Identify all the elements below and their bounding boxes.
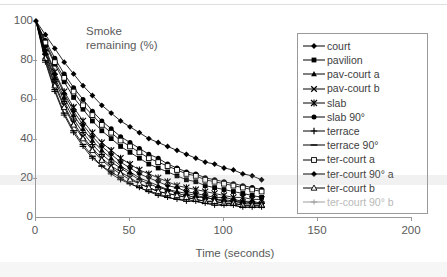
- data-point-marker: [250, 187, 255, 192]
- data-point-marker: [146, 136, 152, 142]
- data-point-marker: [109, 136, 114, 141]
- x-tick-mark: [411, 217, 412, 221]
- data-point-marker: [202, 159, 208, 165]
- data-point-marker: [109, 130, 114, 135]
- legend-item-label: ter-court b: [327, 183, 375, 194]
- data-point-marker: [212, 185, 217, 190]
- data-point-marker: [90, 119, 95, 124]
- legend-item-label: pav-court b: [327, 83, 380, 94]
- x-tick-label: 150: [307, 224, 326, 236]
- y-tick-label: 60: [3, 93, 33, 105]
- legend-item[interactable]: slab 90°: [302, 110, 424, 124]
- x-axis-title: Time (seconds): [140, 247, 330, 259]
- data-point-marker: [240, 185, 245, 190]
- y-tick-label: 0: [3, 211, 33, 223]
- legend-item[interactable]: ter-court b: [302, 181, 424, 195]
- data-point-marker: [212, 161, 218, 167]
- data-point-marker: [311, 128, 317, 134]
- data-point-marker: [99, 128, 104, 133]
- data-point-marker: [311, 200, 318, 205]
- x-tick-label: 0: [32, 224, 38, 236]
- legend-item[interactable]: pav-court b: [302, 82, 424, 96]
- data-point-marker: [193, 179, 198, 184]
- legend-item[interactable]: ter-court a: [302, 153, 424, 167]
- legend-marker-square-open: [302, 154, 326, 166]
- data-point-marker: [81, 103, 86, 108]
- legend-item-label: slab 90°: [327, 112, 365, 123]
- legend-item-label: ter-court 90° a: [327, 169, 394, 180]
- data-point-marker: [165, 144, 171, 150]
- data-point-marker: [312, 115, 317, 120]
- data-point-marker: [156, 160, 161, 165]
- legend-item[interactable]: pav-court a: [302, 67, 424, 81]
- legend-item-label: slab: [327, 98, 346, 109]
- data-point-marker: [175, 173, 180, 178]
- data-point-marker: [175, 168, 180, 173]
- data-point-marker: [231, 183, 236, 188]
- y-axis: 020406080100: [0, 14, 33, 214]
- legend-marker-cross: [302, 83, 326, 95]
- x-tick-label: 200: [401, 224, 420, 236]
- top-rule: [0, 4, 447, 5]
- data-point-marker: [184, 177, 189, 182]
- data-point-marker: [71, 89, 76, 94]
- legend-marker-circle-filled: [302, 111, 326, 123]
- data-point-marker: [137, 156, 142, 161]
- x-axis-line: [35, 217, 411, 218]
- legend-marker-plus: [302, 125, 326, 137]
- data-point-marker: [193, 173, 198, 178]
- data-point-marker: [118, 144, 123, 149]
- data-point-marker: [99, 122, 104, 127]
- data-point-marker: [259, 189, 264, 194]
- data-point-marker: [203, 177, 208, 182]
- legend-marker-diamond-filled: [302, 168, 326, 180]
- data-point-marker: [155, 140, 161, 146]
- data-point-marker: [128, 144, 133, 149]
- y-tick-label: 100: [3, 15, 33, 27]
- legend-item[interactable]: slab: [302, 96, 424, 110]
- legend-item[interactable]: court: [302, 39, 424, 53]
- legend-marker-dash: [302, 139, 326, 151]
- data-point-marker: [137, 130, 143, 136]
- data-point-marker: [249, 173, 255, 179]
- data-point-marker: [222, 181, 227, 186]
- legend-marker-diamond-filled: [302, 40, 326, 52]
- data-point-marker: [311, 43, 317, 49]
- legend-item[interactable]: terrace 90°: [302, 138, 424, 152]
- data-point-marker: [156, 166, 161, 171]
- legend-item-label: ter-court 90° b: [327, 197, 394, 208]
- data-point-marker: [184, 151, 190, 157]
- data-point-marker: [127, 124, 133, 130]
- x-tick-label: 100: [213, 224, 232, 236]
- legend-item[interactable]: ter-court 90° b: [302, 195, 424, 209]
- data-point-marker: [81, 97, 86, 102]
- data-point-marker: [259, 177, 265, 183]
- legend-item-label: pav-court a: [327, 69, 380, 80]
- y-tick-label: 80: [3, 54, 33, 66]
- data-point-marker: [71, 95, 76, 100]
- legend-marker-star: [302, 97, 326, 109]
- y-tick-label: 20: [3, 172, 33, 184]
- legend-item-label: court: [327, 41, 350, 52]
- legend-marker-triangle-filled: [302, 68, 326, 80]
- data-point-marker: [146, 156, 151, 161]
- legend-item-label: pavilion: [327, 55, 363, 66]
- data-point-marker: [184, 171, 189, 176]
- y-tick-label: 40: [3, 133, 33, 145]
- data-point-marker: [212, 179, 217, 184]
- legend-item[interactable]: pavilion: [302, 53, 424, 67]
- data-point-marker: [165, 170, 170, 175]
- data-point-marker: [312, 58, 317, 63]
- x-tick-label: 50: [123, 224, 136, 236]
- data-point-marker: [174, 185, 180, 191]
- legend-marker-square-filled: [302, 54, 326, 66]
- data-point-marker: [90, 113, 95, 118]
- legend-item-label: terrace 90°: [327, 140, 378, 151]
- legend-item[interactable]: terrace: [302, 124, 424, 138]
- data-point-marker: [146, 162, 151, 167]
- data-point-marker: [221, 165, 227, 171]
- legend-item-label: terrace: [327, 126, 360, 137]
- legend-item[interactable]: ter-court 90° a: [302, 167, 424, 181]
- legend-marker-dash-open: [302, 196, 326, 208]
- data-point-marker: [52, 60, 57, 65]
